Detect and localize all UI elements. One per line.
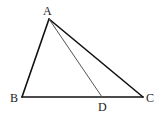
triangle-diagram: A B C D bbox=[0, 0, 162, 115]
side-ca bbox=[49, 19, 143, 97]
label-d: D bbox=[98, 100, 107, 114]
side-ab bbox=[22, 19, 49, 97]
segment-ad bbox=[49, 19, 102, 97]
label-b: B bbox=[10, 91, 18, 105]
label-a: A bbox=[43, 4, 52, 18]
label-c: C bbox=[146, 91, 154, 105]
